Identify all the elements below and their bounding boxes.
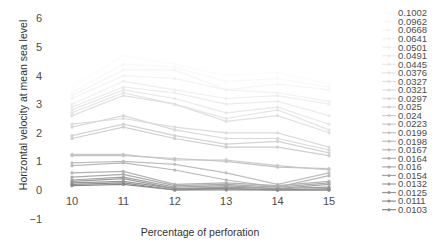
legend-marker-icon xyxy=(388,114,391,117)
x-tick-label: 11 xyxy=(118,195,129,207)
data-point-marker xyxy=(327,83,330,86)
legend-marker-icon xyxy=(388,80,391,83)
legend-marker-icon xyxy=(388,157,391,160)
data-point-marker xyxy=(327,167,330,170)
legend-marker-icon xyxy=(388,183,391,186)
legend-marker-icon xyxy=(388,123,391,126)
data-point-marker xyxy=(276,105,279,108)
data-point-marker xyxy=(327,128,330,131)
y-axis-label: Horizontal velocity at mean sea level xyxy=(17,20,29,190)
data-point-marker xyxy=(70,97,73,100)
data-point-marker xyxy=(225,178,228,181)
data-point-marker xyxy=(122,123,125,126)
series-0.0962 xyxy=(70,63,330,95)
data-point-marker xyxy=(225,97,228,100)
data-point-marker xyxy=(225,117,228,120)
data-point-marker xyxy=(173,68,176,71)
data-point-marker xyxy=(327,151,330,154)
data-point-marker xyxy=(173,97,176,100)
data-point-marker xyxy=(276,91,279,94)
data-point-marker xyxy=(70,125,73,128)
data-point-marker xyxy=(225,188,228,191)
data-point-marker xyxy=(70,111,73,114)
data-point-marker xyxy=(327,146,330,149)
legend-marker-icon xyxy=(388,71,391,74)
data-point-marker xyxy=(122,161,125,164)
data-point-marker xyxy=(122,74,125,77)
data-point-marker xyxy=(173,134,176,137)
data-point-marker xyxy=(173,65,176,68)
data-point-marker xyxy=(225,80,228,83)
data-point-marker xyxy=(173,63,176,66)
legend-marker-icon xyxy=(388,46,391,49)
data-point-marker xyxy=(327,188,330,191)
data-point-marker xyxy=(70,134,73,137)
data-point-marker xyxy=(173,137,176,140)
data-point-marker xyxy=(70,94,73,97)
legend-item: 0.0103 xyxy=(382,204,427,215)
legend-marker-icon xyxy=(388,200,391,203)
data-point-marker xyxy=(173,125,176,128)
data-point-marker xyxy=(70,161,73,164)
data-point-marker xyxy=(327,183,330,186)
legend-marker-icon xyxy=(388,191,391,194)
y-tick-label: 2 xyxy=(36,127,42,139)
data-point-marker xyxy=(173,163,176,166)
legend-marker-icon xyxy=(388,106,391,109)
data-point-marker xyxy=(173,103,176,106)
data-point-marker xyxy=(122,80,125,83)
data-point-marker xyxy=(122,177,125,180)
line-chart: −10123456 101112131415 Horizontal veloci… xyxy=(0,0,436,250)
data-point-marker xyxy=(122,91,125,94)
data-point-marker xyxy=(276,114,279,117)
x-tick-label: 13 xyxy=(220,195,232,207)
data-point-marker xyxy=(327,100,330,103)
data-point-marker xyxy=(70,85,73,88)
legend-marker-icon xyxy=(388,54,391,57)
data-point-marker xyxy=(225,131,228,134)
data-point-marker xyxy=(276,77,279,80)
data-point-marker xyxy=(70,103,73,106)
data-point-marker xyxy=(173,88,176,91)
legend-marker-icon xyxy=(388,140,391,143)
data-point-marker xyxy=(70,184,73,187)
data-point-marker xyxy=(122,154,125,157)
y-tick-label: 4 xyxy=(36,70,42,82)
data-point-marker xyxy=(276,71,279,74)
data-point-marker xyxy=(70,154,73,157)
x-tick-label: 12 xyxy=(169,195,181,207)
data-point-marker xyxy=(70,164,73,167)
data-point-marker xyxy=(225,146,228,149)
data-point-marker xyxy=(70,123,73,126)
data-point-marker xyxy=(225,171,228,174)
y-tick-label: 5 xyxy=(36,41,42,53)
data-point-marker xyxy=(225,120,228,123)
legend-marker-icon xyxy=(388,63,391,66)
y-tick-label: −1 xyxy=(29,213,42,225)
data-point-marker xyxy=(276,146,279,149)
data-point-marker xyxy=(276,131,279,134)
data-point-marker xyxy=(70,176,73,179)
data-point-marker xyxy=(122,125,125,128)
plot-area xyxy=(70,54,330,192)
data-point-marker xyxy=(327,148,330,151)
data-point-marker xyxy=(276,83,279,86)
data-point-marker xyxy=(122,114,125,117)
data-point-marker xyxy=(173,157,176,160)
data-point-marker xyxy=(276,94,279,97)
legend-marker-icon xyxy=(388,174,391,177)
data-point-marker xyxy=(173,168,176,171)
data-point-marker xyxy=(225,160,228,163)
data-point-marker xyxy=(122,173,125,176)
data-point-marker xyxy=(276,166,279,169)
data-point-marker xyxy=(276,188,279,191)
data-point-marker xyxy=(327,123,330,126)
data-point-marker xyxy=(276,140,279,143)
data-point-marker xyxy=(173,128,176,131)
data-point-marker xyxy=(70,108,73,111)
data-point-marker xyxy=(122,85,125,88)
data-point-marker xyxy=(327,131,330,134)
y-tick-label: 1 xyxy=(36,155,42,167)
data-point-marker xyxy=(225,103,228,106)
y-tick-label: 6 xyxy=(36,12,42,24)
